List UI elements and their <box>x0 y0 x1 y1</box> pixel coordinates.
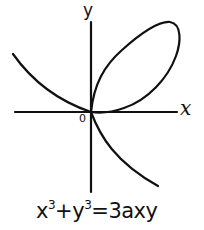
equation-equals: = <box>91 199 108 223</box>
x-axis-label: x <box>180 98 191 118</box>
equation-term-y: y <box>72 199 84 223</box>
folium-left-branch <box>13 54 91 112</box>
graph-canvas <box>0 0 204 230</box>
y-axis-label: y <box>83 2 93 19</box>
folium-lower-branch <box>91 112 158 186</box>
origin-label: 0 <box>79 113 86 124</box>
equation: x3+y3=3axy <box>36 199 157 223</box>
equation-exponent-x: 3 <box>48 198 55 212</box>
folium-loop <box>91 22 180 113</box>
equation-rhs: 3axy <box>108 199 157 223</box>
equation-plus: + <box>55 199 72 223</box>
equation-term-x: x <box>36 199 48 223</box>
